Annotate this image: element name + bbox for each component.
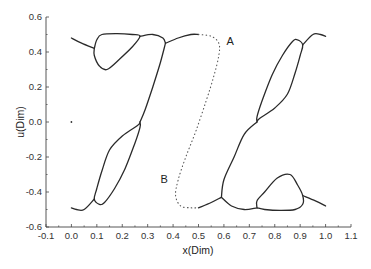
- y-ticks: -0.6-0.4-0.20.00.20.40.6: [26, 11, 49, 232]
- y-tick-label: -0.2: [26, 151, 42, 162]
- y-tick-label: 0.2: [29, 81, 42, 92]
- x-tick-label: 0.7: [243, 230, 256, 241]
- x-tick-label: 0.0: [65, 230, 78, 241]
- y-tick-label: 0.6: [29, 11, 42, 22]
- x-tick-label: 1.1: [344, 230, 357, 241]
- x-tick-label: 0.9: [294, 230, 307, 241]
- series-left-top-tail: [71, 38, 94, 49]
- y-tick-label: -0.6: [26, 221, 42, 232]
- series-right-top-loop: [257, 39, 303, 122]
- x-tick-label: 0.6: [217, 230, 230, 241]
- y-tick-label: 0.4: [29, 46, 42, 57]
- y-tick-label: -0.4: [26, 186, 42, 197]
- series-right-ascending: [221, 122, 257, 197]
- series-A-dotted: [176, 35, 220, 208]
- annotation-a: A: [226, 35, 234, 47]
- series-left-bottom-tail: [71, 199, 94, 210]
- series-left-top-loop: [94, 34, 140, 70]
- x-tick-label: 0.5: [192, 230, 205, 241]
- axes: -0.10.00.10.20.30.40.50.60.70.80.91.01.1…: [26, 11, 358, 241]
- y-axis-title: u(Dim): [14, 106, 26, 138]
- x-tick-label: 0.2: [116, 230, 129, 241]
- series-right-top-tail: [303, 34, 326, 45]
- series-top-bridge: [140, 34, 166, 43]
- data-point: [71, 121, 73, 123]
- series-B-branch: [199, 197, 222, 208]
- x-axis-title: x(Dim): [183, 244, 214, 256]
- series-left-descending: [140, 43, 166, 122]
- series-bottom-bridge: [221, 197, 257, 209]
- series-left-bottom-loop: [94, 122, 140, 205]
- series-right-bottom-tail: [303, 196, 326, 207]
- y-tick-label: 0.0: [29, 116, 42, 127]
- x-tick-label: 0.3: [141, 230, 154, 241]
- x-tick-label: 0.4: [166, 230, 179, 241]
- x-tick-label: 1.0: [319, 230, 332, 241]
- x-tick-label: 0.8: [268, 230, 281, 241]
- plot-area: [71, 34, 326, 211]
- series-right-bottom-loop: [256, 174, 303, 210]
- phase-plot: -0.10.00.10.20.30.40.50.60.70.80.91.01.1…: [0, 0, 371, 269]
- x-tick-label: 0.1: [90, 230, 103, 241]
- annotation-b: B: [160, 173, 167, 185]
- series-A-branch: [166, 34, 199, 43]
